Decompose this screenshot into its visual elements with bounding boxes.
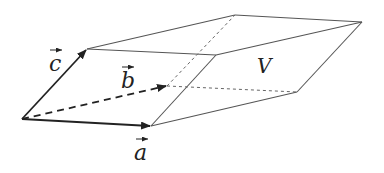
edge-b-ab [167,86,297,92]
edge-b-bc [167,15,235,86]
vector-a [22,119,150,126]
volume-label: V [257,54,274,78]
parallelepiped-diagram: c b a V [0,0,384,173]
label-b: b [121,67,135,93]
edge-c-ac [87,49,216,55]
edge-ac-abc [216,22,362,55]
label-c-text: c [49,51,61,76]
edge-bc-abc [235,15,362,22]
edge-a-ac [151,55,216,126]
edge-ab-abc [297,22,362,92]
label-a-text: a [134,140,147,165]
vectors [22,50,166,126]
edge-a-ab [151,92,297,126]
edge-c-bc [87,15,235,49]
label-b-text: b [121,68,135,93]
vector-b [22,86,166,119]
label-c: c [49,50,62,76]
label-a: a [134,139,148,165]
